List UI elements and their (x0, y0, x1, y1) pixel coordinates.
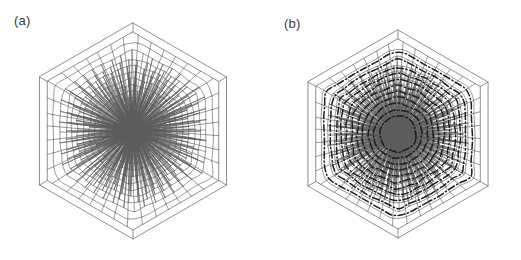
cell-wall-border (90, 200, 93, 205)
cell-wall-border (364, 59, 366, 65)
figure-root: (a) (b) (0, 0, 521, 260)
tessellation-diagram-b (261, 0, 521, 260)
frame-corner-connector-4 (308, 182, 316, 187)
cell-network (47, 35, 218, 227)
cell-wall-border (47, 153, 53, 155)
cell-wall-border (47, 98, 54, 101)
cell-wall-border (166, 204, 168, 209)
frame-corner-connector-5 (308, 82, 316, 87)
cell-wall-border (316, 142, 322, 143)
cell-wall-border (436, 63, 439, 68)
cell-wall-border (474, 97, 481, 100)
cell-wall-border (316, 168, 322, 171)
cell-wall-border (212, 177, 219, 181)
cell-wall-border (212, 108, 219, 110)
cell-wall-border (316, 155, 322, 157)
cell-wall-border (177, 198, 180, 202)
cell-wall-border (67, 188, 71, 192)
cell-wall-border (458, 76, 463, 80)
cell-wall-border (447, 69, 451, 74)
cell-wall-border (212, 161, 219, 164)
cell-wall-border (173, 57, 176, 62)
cell-wall-border (101, 206, 103, 212)
cell-wall-border (353, 65, 356, 70)
cell-wall-border (48, 81, 55, 85)
cell-wall-border (356, 200, 359, 205)
cell-wall-border (419, 210, 421, 216)
cell-wall-border (377, 51, 379, 57)
frame-corner-connector-1 (480, 82, 488, 87)
cell-wall-border (62, 73, 68, 77)
cell-wall-border (213, 122, 219, 123)
cell-wall-border (198, 185, 204, 190)
panel-a: (a) (0, 0, 260, 260)
cell-wall-border (474, 112, 480, 114)
cell-wall-border (475, 125, 481, 126)
cell-wall-border (475, 151, 481, 152)
cell-wall-border (380, 212, 381, 218)
cell-wall-border (330, 78, 335, 82)
cell-wall-border (114, 212, 115, 219)
cell-wall-border (79, 194, 83, 199)
cell-wall-border (368, 206, 370, 212)
cell-wall-border (213, 149, 219, 150)
cell-wall-border (47, 113, 53, 114)
frame-corner-connector-2 (219, 181, 227, 186)
cell-wall-border (346, 194, 350, 199)
cell-wall-border (426, 56, 428, 62)
cell-wall-border (111, 45, 113, 52)
frame-corner-connector-4 (39, 181, 47, 186)
cell-wall-border (142, 217, 143, 224)
cell-wall-border (207, 78, 214, 82)
cell-wall-border (321, 180, 327, 184)
cell-wall-border (440, 199, 443, 203)
cell-wall-border (334, 188, 338, 192)
cell-wall-border (47, 140, 53, 141)
cell-wall-border (184, 64, 188, 69)
cell-wall-border (406, 217, 407, 224)
panel-b: (b) (261, 0, 521, 260)
cell-wall-border (474, 178, 480, 182)
cell-wall-border (52, 179, 58, 183)
cell-wall-border (450, 192, 454, 197)
cell-wall-border (316, 86, 323, 90)
cell-wall-border (341, 72, 345, 77)
cell-wall-border (430, 204, 432, 209)
cell-wall-border (187, 191, 191, 196)
tessellation-diagram-a (0, 0, 260, 260)
cell-wall-border (155, 210, 157, 216)
cell-wall-border (460, 185, 465, 189)
cell-wall-border (98, 52, 101, 58)
cell-wall-border (196, 71, 201, 75)
cell-wall-border (316, 102, 322, 104)
cell-wall-border (389, 44, 390, 51)
cell-wall-border (123, 38, 124, 45)
cell-wall-border (469, 84, 476, 88)
frame-corner-connector-1 (219, 77, 227, 82)
cell-wall-border (414, 49, 415, 55)
cell-wall-border (316, 117, 321, 118)
cell-wall-border (87, 59, 90, 64)
cell-wall-border (474, 163, 481, 165)
frame-corner-connector-5 (39, 77, 47, 82)
frame-corner-connector-2 (480, 182, 488, 187)
cell-wall-border (162, 50, 164, 56)
cell-wall-border (47, 167, 54, 170)
cell-wall-border (212, 93, 219, 96)
cell-wall-border (74, 66, 78, 71)
cell-wall-border (150, 43, 151, 49)
